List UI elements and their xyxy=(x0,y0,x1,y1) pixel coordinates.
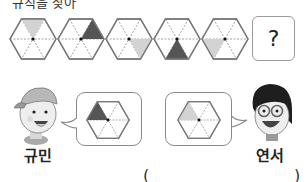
yeonseo-avatar xyxy=(253,84,292,141)
speaker-name-gyumin: 규민 xyxy=(24,144,52,165)
gyumin-answer-hexagon xyxy=(87,102,129,139)
gyumin-avatar xyxy=(14,88,57,145)
speech-bubble-yeonseo xyxy=(165,92,232,146)
answer-blank-close: ) xyxy=(294,166,300,182)
answer-blank-open: ( xyxy=(143,166,149,182)
speaker-name-yeonseo: 연서 xyxy=(256,144,284,165)
